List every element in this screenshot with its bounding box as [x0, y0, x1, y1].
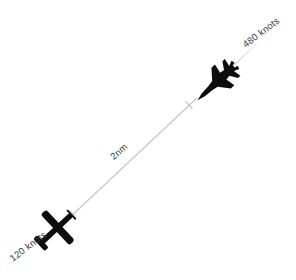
jet-speed-label: 480 knots	[240, 15, 281, 50]
diagram-canvas: 480 knots 2nm 120 knots	[0, 0, 296, 280]
aircraft-separation-diagram: 480 knots 2nm 120 knots	[0, 0, 296, 280]
separation-dimension-line	[66, 98, 197, 221]
prop-plane-icon	[25, 199, 87, 261]
distance-line	[66, 98, 197, 221]
separation-distance-label: 2nm	[108, 141, 130, 162]
diagram-labels: 480 knots 2nm 120 knots	[7, 15, 281, 264]
